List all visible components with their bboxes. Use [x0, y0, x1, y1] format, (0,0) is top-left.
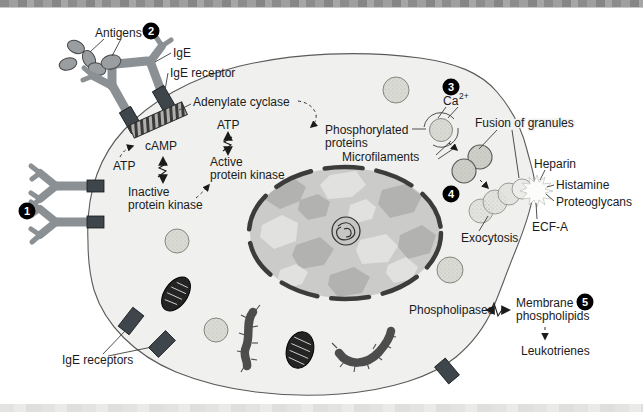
step-badge-3: 3: [443, 79, 460, 96]
step-badge-5: 5: [577, 294, 594, 311]
label-phosphorylated-line2: proteins: [325, 136, 368, 150]
step-badge-4: 4: [443, 186, 460, 203]
granule: [383, 77, 409, 103]
label-membrane-phospholipids-line2: phospholipids: [516, 309, 589, 323]
label-adenylate-cyclase: Adenylate cyclase: [193, 95, 290, 109]
label-fusion-of-granules: Fusion of granules: [475, 116, 574, 130]
figure-canvas: 1 2 3 4 5 Antigens IgE IgE receptor Aden…: [0, 0, 643, 412]
label-camp: cAMP: [145, 139, 177, 153]
nucleolus: [332, 217, 360, 245]
label-leukotrienes: Leukotrienes: [521, 344, 590, 358]
step-number: 2: [148, 25, 154, 37]
label-active-kinase-line1: Active: [210, 155, 243, 169]
step-badge-1: 1: [19, 203, 36, 220]
label-ecf-a: ECF-A: [532, 220, 568, 234]
label-proteoglycans: Proteoglycans: [556, 195, 632, 209]
label-phospholipases: Phospholipases: [409, 303, 494, 317]
granule: [165, 229, 189, 253]
label-inactive-kinase-line2: protein kinase: [128, 198, 203, 212]
label-histamine: Histamine: [556, 178, 610, 192]
label-inactive-kinase-line1: Inactive: [128, 185, 170, 199]
step-number: 3: [448, 81, 454, 93]
label-microfilaments: Microfilaments: [342, 150, 419, 164]
label-antigens: Antigens: [95, 26, 142, 40]
label-ige-receptors: IgE receptors: [62, 353, 133, 367]
label-active-kinase-line2: protein kinase: [210, 168, 285, 182]
label-ige-receptor: IgE receptor: [170, 66, 235, 80]
label-heparin: Heparin: [534, 157, 576, 171]
bottom-border-strip: [0, 404, 643, 412]
label-ca: Ca: [443, 94, 459, 108]
label-membrane-phospholipids-line1: Membrane: [516, 296, 574, 310]
label-phosphorylated-line1: Phosphorylated: [325, 123, 408, 137]
ige-receptor-rect: [87, 216, 104, 228]
ige-receptor-rect: [87, 180, 104, 192]
label-exocytosis: Exocytosis: [461, 231, 518, 245]
step-badge-2: 2: [143, 23, 160, 40]
label-atp-top: ATP: [217, 118, 239, 132]
step-number: 5: [582, 296, 588, 308]
label-ige: IgE: [173, 46, 191, 60]
free-antigens: [58, 38, 107, 77]
step-number: 4: [448, 188, 455, 200]
granule: [204, 318, 228, 342]
label-ca-superscript: 2+: [459, 91, 469, 101]
step-number: 1: [24, 205, 30, 217]
granule: [437, 257, 463, 283]
label-atp-left: ATP: [113, 159, 135, 173]
mast-cell-diagram: 1 2 3 4 5 Antigens IgE IgE receptor Aden…: [0, 0, 643, 412]
